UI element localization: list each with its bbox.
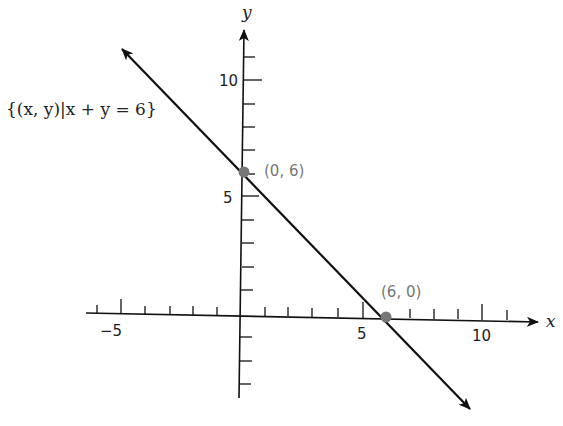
line-x-plus-y-eq-6: [122, 49, 470, 409]
y-tick-label-10: 10: [219, 72, 238, 90]
x-tick-label-5: 5: [357, 325, 367, 343]
y-tick-label-5: 5: [223, 189, 233, 207]
graph-plot: −5 5 10 x 10 5 y (0, 6) (6,: [0, 0, 563, 426]
set-notation-label: {(x, y)|x + y = 6}: [6, 99, 157, 119]
point-6-0: [381, 312, 392, 323]
x-axis: −5 5 10 x: [86, 299, 556, 345]
y-axis: 10 5 y: [219, 2, 262, 398]
x-axis-label: x: [546, 311, 556, 331]
x-tick-label-neg5: −5: [100, 322, 122, 340]
point-label-6-0: (6, 0): [381, 283, 421, 301]
point-label-0-6: (0, 6): [264, 162, 304, 180]
y-axis-label: y: [241, 2, 252, 22]
x-tick-label-10: 10: [472, 327, 491, 345]
point-0-6: [239, 167, 250, 178]
